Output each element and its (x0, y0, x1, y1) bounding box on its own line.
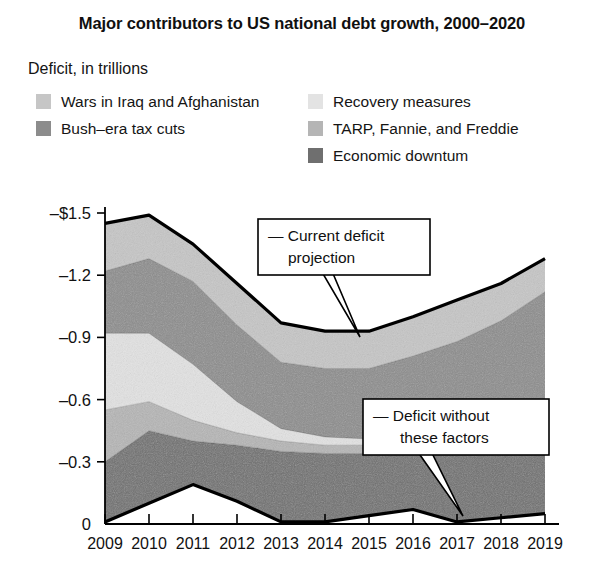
callout-1-line-1: — Current deficit (268, 227, 385, 244)
x-tick-label: 2019 (527, 535, 563, 552)
y-tick-label: 0 (82, 515, 91, 533)
callout-1-line-2: projection (288, 249, 355, 266)
x-tick-label: 2016 (395, 535, 431, 552)
y-tick-label: –$1.5 (50, 204, 91, 222)
x-tick-label: 2010 (131, 535, 167, 552)
callout-2-line-1: — Deficit without (373, 407, 490, 424)
chart-plot-area: –$1.5–1.2–0.9–0.6–0.30 20092010201120122… (0, 0, 604, 578)
y-tick-label: –0.9 (59, 328, 91, 346)
y-tick-label: –1.2 (59, 266, 91, 284)
stacked-area-chart: –$1.5–1.2–0.9–0.6–0.30 20092010201120122… (0, 0, 604, 578)
callout-2-line-2: these factors (400, 429, 489, 446)
x-tick-label: 2018 (483, 535, 519, 552)
x-tick-label: 2013 (263, 535, 299, 552)
x-tick-label: 2009 (87, 535, 123, 552)
y-axis-tick-labels: –$1.5–1.2–0.9–0.6–0.30 (50, 204, 91, 533)
x-axis-tick-labels: 2009201020112012201320142015201620172018… (87, 535, 563, 552)
x-tick-label: 2011 (176, 535, 211, 552)
y-tick-label: –0.3 (59, 453, 91, 471)
x-tick-label: 2017 (439, 535, 475, 552)
x-tick-label: 2014 (307, 535, 343, 552)
y-tick-label: –0.6 (59, 391, 91, 409)
x-tick-label: 2012 (219, 535, 255, 552)
x-tick-label: 2015 (351, 535, 387, 552)
